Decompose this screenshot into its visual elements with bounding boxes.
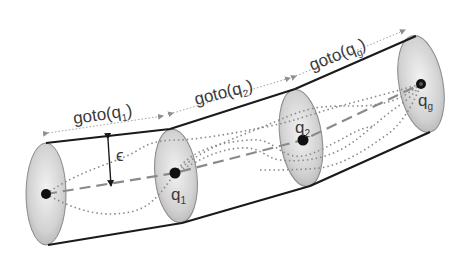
segment-label-2-prefix: goto(q — [192, 79, 243, 109]
segment-label-1: goto(q1) — [72, 101, 134, 130]
epsilon-label: ϵ — [116, 146, 124, 165]
segment-label-3-prefix: goto(q — [306, 39, 358, 75]
waypoint-label-q1-main: q — [171, 185, 180, 204]
waypoint-label-q2-sub: 2 — [304, 128, 310, 139]
waypoint-qg-dot-center — [419, 82, 423, 86]
tube-bottom-edge — [48, 132, 430, 245]
epsilon-arrow — [108, 139, 111, 186]
waypoint-label-q2-main: q — [295, 118, 304, 137]
waypoint-start-dot — [41, 189, 51, 199]
waypoint-q1-dot — [170, 168, 181, 179]
waypoint-label-q1-sub: 1 — [180, 195, 186, 206]
segment-label-1-suffix: ) — [125, 101, 133, 121]
waypoint-label-qg-sub: g — [427, 101, 433, 112]
tube-diagram: ϵ goto(q1) goto(q2) goto(qg) q1 q2 qg — [0, 0, 472, 260]
segment-label-1-prefix: goto(q — [72, 102, 122, 128]
waypoint-label-qg-main: q — [418, 91, 427, 110]
